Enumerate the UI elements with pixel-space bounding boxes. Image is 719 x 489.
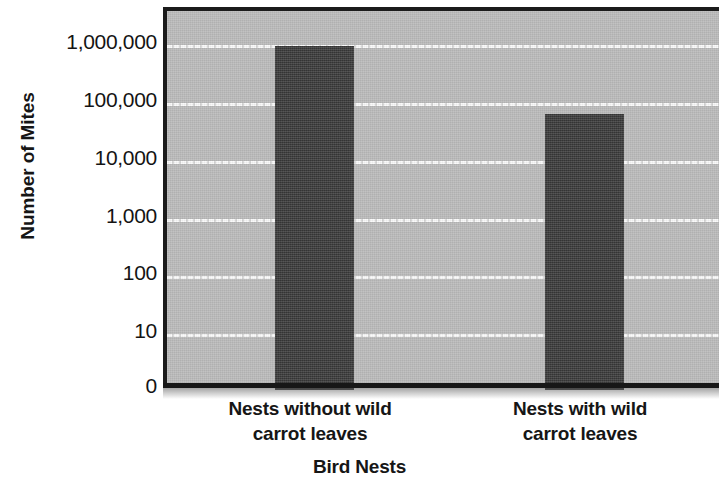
x-axis-category-label-1-line1: Nests with wild <box>455 396 705 421</box>
x-axis-category-label-1: Nests with wild carrot leaves <box>455 396 705 446</box>
bar-nests-with-wild-carrot-leaves <box>545 114 624 390</box>
x-axis-title: Bird Nests <box>0 456 719 478</box>
bar-chart-figure: Number of Mites 1,000,000 100,000 10,000… <box>0 0 719 489</box>
scan-texture-overlay <box>167 11 719 386</box>
bar-nests-without-wild-carrot-leaves <box>275 46 354 390</box>
y-axis-tick-label-10: 10 <box>0 320 157 341</box>
plot-inner <box>167 11 719 386</box>
y-axis-tick-label-group: 1,000,000 100,000 10,000 1,000 100 10 0 <box>0 0 157 489</box>
y-axis-tick-label-100: 100 <box>0 262 157 283</box>
gridline-1000000 <box>167 45 719 48</box>
x-axis-category-label-0-line2: carrot leaves <box>185 421 435 446</box>
gridline-10 <box>167 334 719 337</box>
plot-area <box>163 7 719 386</box>
x-axis-category-label-0: Nests without wild carrot leaves <box>185 396 435 446</box>
gridline-1000 <box>167 219 719 222</box>
gridline-10000 <box>167 161 719 164</box>
y-axis-tick-label-100000: 100,000 <box>0 89 157 110</box>
y-axis-tick-label-1000000: 1,000,000 <box>0 31 157 52</box>
y-axis-tick-label-10000: 10,000 <box>0 147 157 168</box>
y-axis-tick-label-0: 0 <box>0 375 157 396</box>
y-axis-tick-label-1000: 1,000 <box>0 205 157 226</box>
x-axis-category-label-1-line2: carrot leaves <box>455 421 705 446</box>
gridline-100 <box>167 276 719 279</box>
gridline-100000 <box>167 103 719 106</box>
x-axis-category-label-0-line1: Nests without wild <box>185 396 435 421</box>
